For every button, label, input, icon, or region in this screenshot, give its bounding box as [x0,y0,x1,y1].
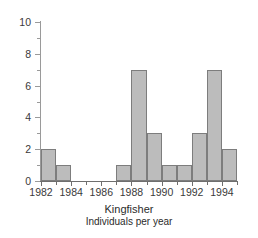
x-axis-minor-tick [86,182,87,185]
x-axis-minor-tick [116,182,117,185]
bar [116,165,131,181]
x-axis-minor-tick [177,182,178,185]
y-axis-tick [35,117,40,118]
plot-area [41,22,237,181]
x-axis-minor-tick [207,182,208,185]
y-axis-tick [35,86,40,87]
bar [177,165,192,181]
bar [41,149,56,181]
chart-caption: Kingfisher Individuals per year [0,203,258,228]
y-axis-minor-tick [37,102,40,103]
y-axis-minor-tick [37,133,40,134]
bar [162,165,177,181]
bar [207,70,222,181]
x-axis-minor-tick [237,182,238,185]
bar [131,70,146,181]
y-axis-tick [35,181,40,182]
y-axis-tick-label: 6 [0,80,35,91]
x-axis-tick-label: 1994 [200,187,244,198]
y-axis-minor-tick [37,70,40,71]
y-axis-tick [35,54,40,55]
x-axis-line [40,181,238,182]
y-axis-tick-label: 0 [0,176,35,187]
y-axis-tick-label: 8 [0,49,35,60]
bar [56,165,71,181]
bar [222,149,237,181]
y-axis-tick [35,149,40,150]
x-axis-minor-tick [56,182,57,185]
y-axis-tick-label: 2 [0,144,35,155]
bar [147,133,162,181]
y-axis-tick-label: 10 [0,17,35,28]
x-axis-minor-tick [147,182,148,185]
y-axis-line [40,21,41,182]
y-axis-minor-tick [37,165,40,166]
caption-title: Kingfisher [0,203,258,216]
kingfisher-bar-chart: 0246810 1982198419861988199019921994 Kin… [0,0,258,238]
bar [192,133,207,181]
y-axis-tick-label: 4 [0,112,35,123]
caption-subtitle: Individuals per year [0,216,258,228]
y-axis-minor-tick [37,38,40,39]
y-axis-tick [35,22,40,23]
